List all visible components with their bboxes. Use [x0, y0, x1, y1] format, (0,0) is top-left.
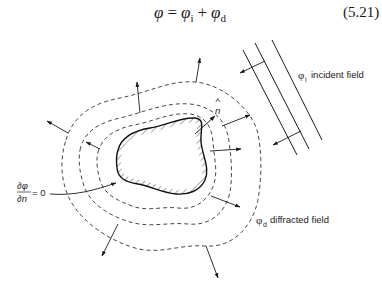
scatterer-body — [116, 118, 206, 194]
phi-symbol: φ — [298, 69, 304, 81]
subscript-i: i — [305, 76, 307, 83]
diffracted-field-text: diffracted field — [270, 214, 329, 225]
boundary-denominator: ∂n — [17, 193, 27, 204]
arrow-up — [137, 82, 140, 113]
arrow-right-lower — [211, 196, 240, 207]
arrow-up-left — [47, 121, 68, 133]
arrow-right — [210, 149, 241, 151]
arrow-right-upper — [222, 115, 250, 126]
incident-wavefronts — [243, 40, 322, 155]
incident-arrow-lower — [273, 131, 301, 145]
subscript-d: d — [263, 221, 267, 228]
incident-field-text: incident field — [311, 69, 364, 80]
boundary-leader-arrow — [50, 183, 116, 194]
arrow-inward — [86, 142, 100, 149]
normal-hat: ^ — [216, 96, 221, 107]
diffraction-diagram: n ^ φ i incident field φ d diffracted fi… — [0, 0, 382, 290]
boundary-numerator: ∂φ — [17, 180, 28, 191]
incident-arrow-upper — [240, 61, 265, 73]
boundary-condition-label: ∂φ ∂n = 0 — [17, 180, 45, 204]
incident-wavefront-1 — [243, 50, 297, 155]
arrow-down — [206, 246, 218, 278]
incident-field-label: φ i incident field — [298, 69, 364, 83]
phi-symbol: φ — [256, 214, 262, 226]
boundary-rhs: = 0 — [32, 187, 45, 198]
diffracted-field-label: φ d diffracted field — [256, 214, 329, 228]
arrow-up-right — [196, 58, 200, 82]
